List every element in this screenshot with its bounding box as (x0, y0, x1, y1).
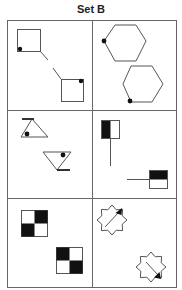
panel-stars (97, 205, 166, 282)
triangle-shape (43, 152, 71, 170)
dot-marker (25, 132, 30, 137)
panel-half-squares (102, 121, 168, 189)
dot-marker (18, 47, 22, 51)
panel-checkerboards (22, 211, 83, 274)
dot-marker (128, 99, 133, 104)
panel-triangles (21, 119, 71, 170)
dot-marker (102, 39, 107, 44)
arrow-head (116, 208, 123, 215)
hexagon-shape (123, 66, 163, 102)
panel-hexagons (102, 25, 163, 103)
dot-marker (61, 153, 66, 158)
grid-lines (8, 21, 177, 288)
dot-marker (79, 79, 83, 83)
hexagon-shape (104, 25, 146, 61)
diagram-grid (0, 0, 182, 290)
panel-squares (18, 30, 84, 102)
